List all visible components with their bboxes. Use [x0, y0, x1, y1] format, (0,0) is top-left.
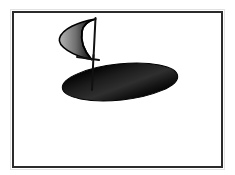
mast-upper [94, 18, 96, 58]
sail [59, 19, 95, 60]
ellipse-base [60, 58, 179, 106]
illustration-canvas [0, 0, 235, 175]
figure-root: Sail and elliptical base diagram [0, 0, 235, 175]
